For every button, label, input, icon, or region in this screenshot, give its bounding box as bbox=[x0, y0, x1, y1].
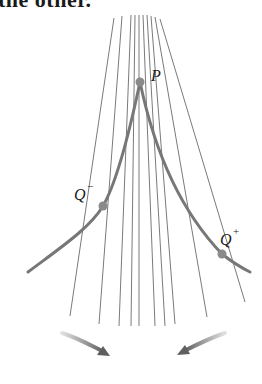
right-arrow-icon bbox=[177, 333, 225, 355]
family-line bbox=[160, 19, 245, 302]
left-arrow-icon bbox=[62, 333, 110, 356]
geodesic-diagram: P Q − Q + bbox=[0, 0, 262, 384]
family-line bbox=[70, 18, 114, 316]
line-family bbox=[70, 15, 245, 326]
family-line bbox=[131, 15, 135, 326]
point-q-minus-dot bbox=[99, 202, 108, 211]
point-p-dot bbox=[136, 78, 145, 87]
label-q-plus-sup: + bbox=[233, 225, 239, 237]
label-q-minus: Q bbox=[74, 186, 86, 203]
label-p: P bbox=[150, 67, 161, 84]
family-line bbox=[143, 15, 155, 326]
family-line bbox=[119, 15, 131, 326]
left-curve bbox=[28, 82, 140, 272]
label-q-minus-sup: − bbox=[87, 180, 93, 192]
point-q-plus-dot bbox=[218, 250, 227, 259]
label-q-plus: Q bbox=[220, 231, 232, 248]
